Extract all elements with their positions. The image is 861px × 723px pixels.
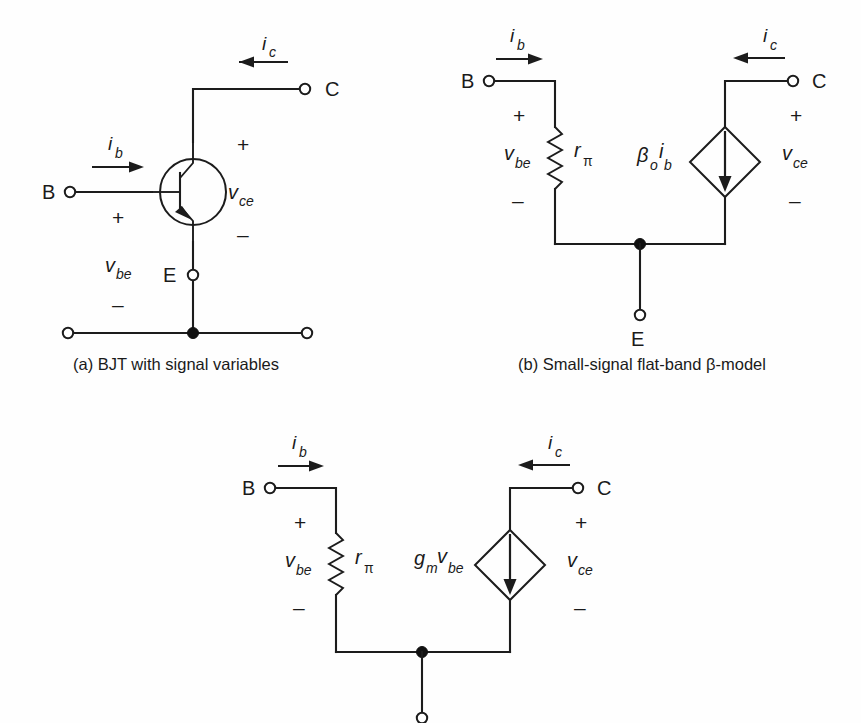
panel-c-rpi-symbol: r: [355, 546, 363, 568]
figure-root: C i c B i b: [0, 0, 861, 723]
panel-b-ic-subscript: c: [770, 37, 777, 53]
panel-c-resistor-rpi: [329, 533, 343, 595]
panel-b-vbe-plus: +: [513, 104, 525, 127]
panel-c-terminal-c[interactable]: [573, 483, 583, 493]
panel-c-source-arrow-head: [504, 579, 517, 595]
panel-a-current-ic-label: i c: [262, 33, 276, 60]
panel-c-terminal-b[interactable]: [265, 483, 275, 493]
panel-c-source-symbol-g: g: [414, 547, 425, 569]
panel-b-source-label: β o i b: [636, 140, 672, 173]
panel-b-rpi-label: r π: [574, 139, 593, 169]
panel-b-vbe-minus: –: [512, 189, 524, 212]
panel-b-terminal-b[interactable]: [484, 76, 494, 86]
panel-a-vbe-subscript: be: [116, 266, 132, 282]
panel-b-ib-arrow-head: [528, 54, 543, 65]
panel-c-node-label-b: B: [242, 477, 255, 499]
panel-c-rpi-subscript: π: [364, 560, 374, 576]
panel-a-current-ic-arrow: [239, 57, 288, 68]
panel-b-terminal-c[interactable]: [788, 76, 798, 86]
panel-a-vbe-plus: +: [112, 206, 124, 229]
panel-b-ib-subscript: b: [517, 37, 525, 53]
panel-a-node-label-b: B: [42, 181, 55, 203]
panel-b-resistor-rpi: [548, 127, 562, 189]
panel-a-node-label-e: E: [163, 264, 176, 286]
panel-a-vce-plus: +: [237, 133, 249, 156]
panel-c-group: B i b r π C: [242, 432, 611, 723]
panel-b-vbe-label: v be: [504, 142, 531, 171]
panel-a-group: C i c B i b: [42, 33, 339, 373]
panel-c-vce-plus: +: [575, 511, 587, 534]
panel-c-ic-symbol: i: [548, 432, 553, 453]
panel-c-vce-minus: –: [574, 596, 586, 619]
panel-b-collector-wire: [725, 81, 787, 127]
panel-b-vbe-symbol: v: [504, 142, 515, 164]
panel-b-node-label-b: B: [461, 70, 474, 92]
panel-c-vce-subscript: ce: [578, 562, 593, 578]
panel-b-node-label-e: E: [631, 328, 644, 350]
panel-c-current-ic-label: i c: [548, 432, 562, 460]
panel-b-node-label-c: C: [812, 70, 826, 92]
panel-c-vbe-label: v be: [285, 549, 312, 578]
panel-a-ib-subscript: b: [115, 145, 123, 161]
panel-a-terminal-c[interactable]: [300, 84, 310, 94]
panel-c-ib-symbol: i: [292, 432, 297, 453]
panel-b-current-ib-arrow: [496, 54, 543, 65]
panel-b-terminal-e[interactable]: [635, 310, 645, 320]
panel-c-collector-wire: [510, 488, 572, 530]
panel-a-transistor-emitter-arrow: [175, 206, 192, 220]
panel-b-ic-symbol: i: [763, 25, 768, 46]
panel-a-vbe-minus: –: [112, 293, 124, 316]
panel-a-vbe-symbol: v: [105, 254, 116, 276]
panel-b-ib-symbol: i: [510, 25, 515, 46]
panel-a-vce-minus: –: [237, 223, 249, 246]
panel-a-terminal-e[interactable]: [188, 270, 198, 280]
panel-c-source-symbol-v: v: [437, 545, 448, 567]
panel-b-current-ic-label: i c: [763, 25, 777, 53]
panel-c-source-subscript-be: be: [448, 560, 464, 576]
panel-b-current-ib-label: i b: [510, 25, 525, 53]
panel-b-vce-subscript: ce: [793, 155, 808, 171]
panel-b-caption: (b) Small-signal flat-band β-model: [518, 355, 766, 373]
panel-c-terminal-e[interactable]: [417, 713, 427, 723]
panel-c-current-ib-label: i b: [292, 432, 307, 460]
panel-c-ib-subscript: b: [299, 444, 307, 460]
panel-a-caption: (a) BJT with signal variables: [73, 355, 279, 373]
panel-b-current-ic-arrow: [733, 53, 785, 64]
panel-c-current-ic-arrow: [518, 460, 570, 471]
panel-b-ic-arrow-head: [733, 53, 748, 64]
panel-c-vbe-subscript: be: [296, 562, 312, 578]
panel-b-source-symbol-beta: β: [636, 144, 648, 166]
panel-a-terminal-b[interactable]: [65, 187, 75, 197]
panel-c-ic-subscript: c: [555, 444, 562, 460]
panel-c-ic-arrow-head: [518, 460, 533, 471]
panel-b-vce-plus: +: [790, 104, 802, 127]
panel-c-vce-symbol: v: [567, 549, 578, 571]
panel-c-vce-label: v ce: [567, 549, 593, 578]
panel-a-vce-symbol: v: [228, 181, 239, 203]
panel-b-group: B i b r π C: [461, 25, 826, 373]
panel-b-rpi-symbol: r: [574, 139, 582, 161]
panel-c-node-label-c: C: [597, 477, 611, 499]
panel-c-rpi-label: r π: [355, 546, 374, 576]
panel-b-vce-symbol: v: [782, 142, 793, 164]
panel-b-vce-label: v ce: [782, 142, 808, 171]
panel-c-vbe-minus: –: [293, 596, 305, 619]
panel-b-source-subscript-b: b: [664, 157, 672, 173]
panel-a-ic-symbol: i: [262, 33, 267, 54]
panel-a-junction-dot: [188, 328, 199, 339]
panel-a-terminal-bottom-right[interactable]: [302, 328, 312, 338]
panel-a-vbe-label: v be: [105, 254, 132, 282]
panel-a-ib-arrow-head: [129, 162, 144, 173]
circuit-diagram-svg: C i c B i b: [0, 0, 861, 723]
panel-a-terminal-bottom-left[interactable]: [63, 328, 73, 338]
panel-a-ic-arrow-head: [239, 57, 254, 68]
panel-c-current-ib-arrow: [278, 461, 324, 472]
panel-b-vbe-subscript: be: [515, 155, 531, 171]
panel-a-vce-label: v ce: [228, 181, 254, 209]
panel-a-vce-subscript: ce: [239, 193, 254, 209]
panel-a-ib-symbol: i: [108, 133, 113, 154]
panel-c-ib-arrow-head: [309, 461, 324, 472]
panel-c-vbe-plus: +: [294, 511, 306, 534]
panel-a-current-ib-label: i b: [108, 133, 123, 161]
panel-b-source-arrow-head: [719, 176, 732, 192]
